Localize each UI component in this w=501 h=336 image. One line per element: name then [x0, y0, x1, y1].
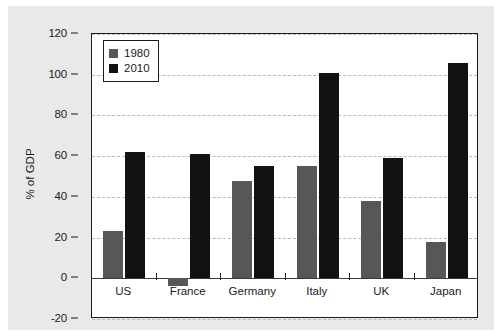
x-tick-label-japan: Japan [430, 285, 461, 297]
legend-swatch-icon [109, 49, 118, 58]
legend-label: 1980 [124, 46, 150, 61]
y-tick-mark [71, 114, 78, 115]
gridline [92, 238, 477, 239]
y-tick-mark [71, 73, 78, 74]
y-tick-label: 20 [55, 231, 67, 243]
x-tick-mark [156, 273, 157, 280]
gridline [92, 34, 477, 35]
y-tick-mark [71, 195, 78, 196]
bar-italy-1980 [297, 166, 317, 278]
x-tick-mark [414, 273, 415, 280]
y-tick-mark [71, 318, 78, 319]
x-axis-ticks: USFranceGermanyItalyUKJapan [91, 273, 478, 336]
bar-italy-2010 [319, 73, 339, 279]
x-tick-mark [285, 273, 286, 280]
bar-japan-2010 [448, 63, 468, 279]
chart-legend: 19802010 [103, 40, 159, 82]
legend-swatch-icon [109, 64, 118, 73]
y-tick-mark [71, 236, 78, 237]
legend-item-2010: 2010 [109, 61, 150, 76]
y-tick-label: -20 [51, 312, 67, 324]
figure-canvas: % of GDP 120100806040200-20 USFranceGerm… [8, 6, 494, 330]
gridline [92, 197, 477, 198]
y-tick-label: 80 [55, 108, 67, 120]
bar-germany-1980 [232, 181, 252, 279]
bar-uk-1980 [361, 201, 381, 278]
y-tick-mark [71, 277, 78, 278]
y-axis-ticks: 120100806040200-20 [8, 6, 91, 336]
bar-france-2010 [190, 154, 210, 278]
bar-germany-2010 [254, 166, 274, 278]
x-tick-label-italy: Italy [306, 285, 327, 297]
x-tick-label-france: France [170, 285, 206, 297]
gridline [92, 156, 477, 157]
chart-figure: % of GDP 120100806040200-20 USFranceGerm… [0, 0, 501, 336]
y-tick-label: 40 [55, 190, 67, 202]
y-tick-label: 60 [55, 149, 67, 161]
legend-item-1980: 1980 [109, 46, 150, 61]
y-tick-label: 100 [48, 68, 67, 80]
gridline [92, 115, 477, 116]
y-tick-mark [71, 33, 78, 34]
x-tick-label-germany: Germany [229, 285, 276, 297]
bar-uk-2010 [383, 158, 403, 278]
x-tick-mark [349, 273, 350, 280]
y-tick-mark [71, 155, 78, 156]
legend-label: 2010 [124, 61, 150, 76]
x-tick-label-us: US [115, 285, 131, 297]
x-tick-label-uk: UK [373, 285, 389, 297]
bar-us-2010 [125, 152, 145, 278]
y-tick-label: 120 [48, 27, 67, 39]
bar-us-1980 [103, 231, 123, 278]
x-tick-mark [220, 273, 221, 280]
y-tick-label: 0 [61, 271, 67, 283]
